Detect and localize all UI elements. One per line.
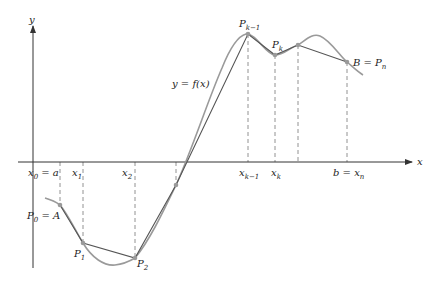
point-p0 xyxy=(58,203,63,208)
point-p1 xyxy=(81,241,86,246)
dashed-guides xyxy=(60,34,347,258)
tick-xk-1: xk−1 xyxy=(239,167,259,181)
function-curve xyxy=(45,34,363,265)
y-axis-label: y xyxy=(28,14,35,25)
curve-label: y = f(x) xyxy=(171,78,210,89)
label-p2: P2 xyxy=(136,258,149,272)
x-axis-label: x xyxy=(417,156,423,167)
polygonal-path xyxy=(60,34,347,258)
tick-xk: xk xyxy=(271,167,281,181)
label-p0: P0 = A xyxy=(26,210,60,224)
tick-x1: x1 xyxy=(72,167,82,181)
label-p1: P1 xyxy=(73,248,85,262)
tick-xn: b = xn xyxy=(333,167,365,181)
vertices xyxy=(58,32,350,261)
label-pk-1: Pk−1 xyxy=(238,18,260,32)
point-pk xyxy=(273,53,278,58)
diagram-canvas: y x y = f(x) x0 = a x1 x2 xk−1 xk b = xn… xyxy=(0,0,436,282)
point-pk-1 xyxy=(246,32,251,37)
label-pk: Pk xyxy=(271,39,283,53)
tick-x2: x2 xyxy=(122,167,133,181)
label-pn: B = Pn xyxy=(352,57,387,71)
point-pk+1 xyxy=(296,43,301,48)
point-pn xyxy=(345,60,350,65)
point-p3 xyxy=(174,183,179,188)
